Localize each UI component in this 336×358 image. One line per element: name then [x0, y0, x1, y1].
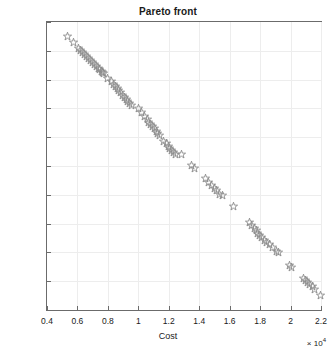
- x-axis-tick-label: 0.8: [93, 316, 123, 326]
- y-axis-tick: [47, 252, 51, 253]
- scatter-markers: [47, 22, 321, 310]
- scatter-point: [190, 164, 199, 173]
- y-axis-tick: [47, 108, 51, 109]
- scatter-point: [229, 202, 238, 211]
- x-axis-tick-label: 2.2: [306, 316, 336, 326]
- scatter-point: [218, 191, 227, 200]
- x-axis-tick-label: 1.4: [184, 316, 214, 326]
- scatter-point: [287, 263, 296, 272]
- x-axis-tick: [108, 306, 109, 310]
- x-axis-tick-label: 1.2: [154, 316, 184, 326]
- x-axis-tick: [199, 306, 200, 310]
- y-axis-tick: [47, 22, 51, 23]
- x-axis-tick-label: 0.4: [32, 316, 62, 326]
- x-axis-title: Cost: [0, 331, 336, 341]
- x-axis-tick: [260, 306, 261, 310]
- x-axis-tick: [77, 306, 78, 310]
- x-axis-tick: [291, 306, 292, 310]
- y-axis-tick: [47, 281, 51, 282]
- y-axis-tick: [47, 224, 51, 225]
- y-axis-tick: [47, 80, 51, 81]
- y-axis-tick: [47, 51, 51, 52]
- scatter-point: [177, 150, 186, 159]
- x-axis-tick-label: 0.6: [62, 316, 92, 326]
- scatter-point: [316, 291, 325, 300]
- chart-title: Pareto front: [0, 6, 336, 17]
- y-axis-tick: [47, 166, 51, 167]
- x-axis-tick-label: 1.6: [215, 316, 245, 326]
- y-axis-tick: [47, 137, 51, 138]
- x-axis-tick-label: 2: [276, 316, 306, 326]
- x-axis-exponent-label: × 104: [307, 337, 326, 348]
- x-axis-tick-label: 1: [123, 316, 153, 326]
- scatter-point: [274, 248, 283, 257]
- exponent-mantissa: × 10: [307, 339, 323, 348]
- x-axis-tick: [169, 306, 170, 310]
- y-axis-tick: [47, 195, 51, 196]
- chart-figure: Pareto front Quality Cost × 104 0.40.60.…: [0, 0, 336, 358]
- x-axis-tick: [138, 306, 139, 310]
- exponent-power: 4: [323, 337, 326, 343]
- y-axis-tick: [47, 310, 51, 311]
- x-axis-tick: [230, 306, 231, 310]
- plot-area: 0.40.60.811.21.41.61.822.202468101214161…: [46, 21, 322, 311]
- x-axis-tick: [321, 306, 322, 310]
- x-axis-tick-label: 1.8: [245, 316, 275, 326]
- gridline-vertical: [321, 22, 322, 310]
